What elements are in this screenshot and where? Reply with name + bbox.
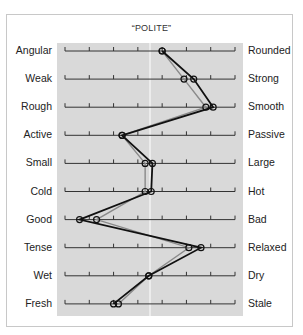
plot-area [0,0,303,335]
profile-line [80,51,214,304]
